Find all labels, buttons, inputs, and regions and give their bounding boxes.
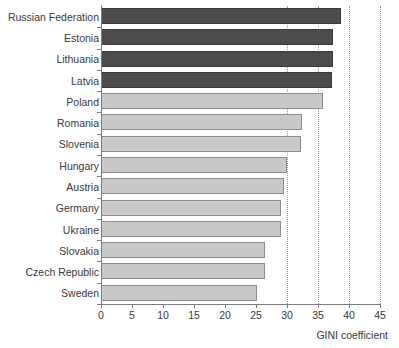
category-label-russian-federation: Russian Federation [3, 11, 99, 23]
bar-row [101, 176, 380, 197]
bar-germany[interactable] [101, 200, 281, 216]
category-label-austria: Austria [3, 181, 99, 193]
x-axis-tick-label-20: 20 [213, 309, 237, 321]
bar-hungary[interactable] [101, 157, 287, 173]
category-label-sweden: Sweden [3, 287, 99, 299]
x-axis-tick-label-35: 35 [306, 309, 330, 321]
bar-row [101, 261, 380, 282]
bar-sweden[interactable] [101, 285, 257, 301]
bar-row [101, 70, 380, 91]
bar-ukraine[interactable] [101, 221, 281, 237]
bar-slovakia[interactable] [101, 242, 265, 258]
bar-row [101, 112, 380, 133]
bar-row [101, 49, 380, 70]
bar-lithuania[interactable] [101, 51, 333, 67]
x-axis-tick-40 [349, 304, 350, 308]
bar-russian-federation[interactable] [101, 8, 341, 24]
x-axis-tick-5 [132, 304, 133, 308]
category-label-latvia: Latvia [3, 75, 99, 87]
x-axis-tick-label-5: 5 [120, 309, 144, 321]
x-axis-tick-25 [256, 304, 257, 308]
x-axis-tick-label-40: 40 [337, 309, 361, 321]
x-axis-tick-label-15: 15 [182, 309, 206, 321]
x-axis-tick-45 [380, 304, 381, 308]
bar-row [101, 240, 380, 261]
bar-row [101, 283, 380, 304]
bar-estonia[interactable] [101, 29, 333, 45]
category-axis-labels: Russian FederationEstoniaLithuaniaLatvia… [0, 6, 99, 304]
category-label-ukraine: Ukraine [3, 224, 99, 236]
category-label-czech-republic: Czech Republic [3, 266, 99, 278]
bar-row [101, 198, 380, 219]
x-axis-line [101, 304, 381, 305]
category-label-hungary: Hungary [3, 160, 99, 172]
x-axis-tick-30 [287, 304, 288, 308]
bar-row [101, 27, 380, 48]
x-axis-tick-20 [225, 304, 226, 308]
bar-czech-republic[interactable] [101, 263, 265, 279]
x-axis-tick-label-45: 45 [368, 309, 392, 321]
x-axis-tick-15 [194, 304, 195, 308]
x-axis-tick-label-25: 25 [244, 309, 268, 321]
category-label-germany: Germany [3, 202, 99, 214]
x-axis-title: GINI coefficient [0, 329, 388, 341]
bar-row [101, 134, 380, 155]
bar-row [101, 155, 380, 176]
bar-romania[interactable] [101, 114, 302, 130]
bar-row [101, 6, 380, 27]
x-axis-tick-0 [101, 304, 102, 308]
category-label-slovenia: Slovenia [3, 138, 99, 150]
gridline-45 [380, 6, 381, 304]
category-label-romania: Romania [3, 117, 99, 129]
category-label-lithuania: Lithuania [3, 53, 99, 65]
bar-latvia[interactable] [101, 72, 332, 88]
x-axis-tick-35 [318, 304, 319, 308]
gini-coefficient-bar-chart: Russian FederationEstoniaLithuaniaLatvia… [0, 0, 399, 348]
bar-row [101, 219, 380, 240]
category-label-estonia: Estonia [3, 32, 99, 44]
bar-poland[interactable] [101, 93, 323, 109]
x-axis-tick-label-30: 30 [275, 309, 299, 321]
x-axis-tick-label-10: 10 [151, 309, 175, 321]
bar-slovenia[interactable] [101, 136, 301, 152]
bar-row [101, 91, 380, 112]
category-label-poland: Poland [3, 96, 99, 108]
y-axis-line [101, 5, 102, 305]
plot-area [101, 6, 380, 304]
bar-austria[interactable] [101, 178, 284, 194]
x-axis-tick-label-0: 0 [89, 309, 113, 321]
category-label-slovakia: Slovakia [3, 245, 99, 257]
x-axis-tick-10 [163, 304, 164, 308]
